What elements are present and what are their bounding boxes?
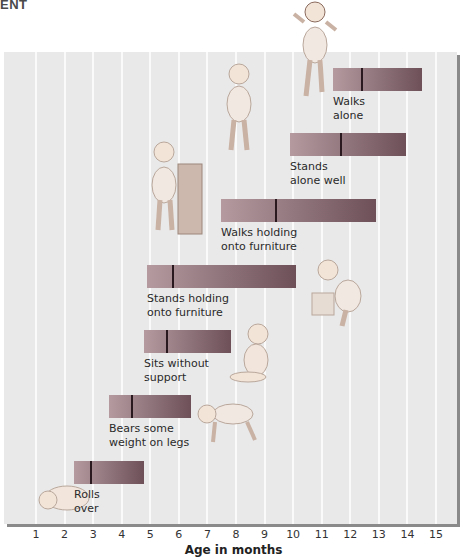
gridline [264,52,266,524]
gridline [378,52,380,524]
milestone-bar [147,265,296,288]
gridline [206,52,208,524]
milestone-bar [290,133,406,156]
x-tick-label: 12 [340,528,360,541]
milestone-bar [74,461,144,484]
baby-standing-icon [218,62,260,154]
x-tick-label: 13 [369,528,389,541]
milestone-label: Bears some weight on legs [109,422,189,450]
milestone-bar [221,199,376,222]
gridline [64,52,66,524]
baby-sitting-icon [228,322,273,384]
x-tick-label: 11 [312,528,332,541]
baby-standing-holding-icon [310,258,365,328]
milestone-bar [333,68,422,91]
gridline [149,52,151,524]
median-marker [90,461,92,484]
milestone-label: Sits without support [144,357,209,385]
median-marker [172,265,174,288]
milestone-bar [109,395,191,418]
x-tick-label: 5 [140,528,160,541]
baby-cruising-icon [148,140,208,235]
x-tick-label: 8 [226,528,246,541]
x-tick-label: 15 [426,528,446,541]
milestone-bar [144,330,231,353]
milestone-label: Walks alone [333,95,365,123]
x-tick-label: 1 [26,528,46,541]
x-tick-label: 6 [169,528,189,541]
gridline [406,52,408,524]
x-tick-label: 9 [255,528,275,541]
x-tick-label: 3 [83,528,103,541]
x-tick-label: 7 [197,528,217,541]
milestone-label: Stands alone well [290,160,346,188]
median-marker [361,68,363,91]
x-tick-label: 2 [55,528,75,541]
x-tick-label: 14 [397,528,417,541]
x-axis-title: Age in months [0,543,467,557]
gridline [121,52,123,524]
gridline [435,52,437,524]
median-marker [131,395,133,418]
x-tick-label: 10 [283,528,303,541]
gridline [92,52,94,524]
milestone-label: Stands holding onto furniture [147,292,229,320]
milestone-label: Rolls over [74,488,100,516]
median-marker [340,133,342,156]
gridline [35,52,37,524]
section-heading: ENT [0,0,28,12]
gridline [178,52,180,524]
x-tick-label: 4 [112,528,132,541]
median-marker [166,330,168,353]
baby-crawling-icon [195,400,260,445]
milestone-label: Walks holding onto furniture [221,226,297,254]
median-marker [275,199,277,222]
gridline [292,52,294,524]
